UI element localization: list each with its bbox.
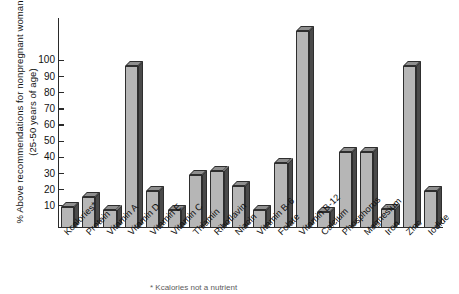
bar-face <box>403 66 416 228</box>
bar-side <box>309 26 314 228</box>
y-tick-label: 100 <box>29 54 55 66</box>
bars-layer <box>59 18 443 228</box>
y-tick-label: 60 <box>29 119 55 131</box>
y-tick-50: 50 <box>24 135 64 147</box>
y-tick-label: 20 <box>29 184 55 196</box>
bar-zinc <box>403 61 416 228</box>
y-tick-60: 60 <box>24 119 64 131</box>
y-tick-10: 10 <box>24 200 64 212</box>
y-tick-40: 40 <box>24 151 64 163</box>
y-tick-label: 70 <box>29 103 55 115</box>
y-tick-70: 70 <box>24 103 64 115</box>
y-tick-90: 90 <box>24 71 64 83</box>
bar-side <box>138 61 143 228</box>
y-tick-label: 10 <box>29 200 55 212</box>
y-tick-20: 20 <box>24 184 64 196</box>
y-tick-30: 30 <box>24 168 64 180</box>
y-tick-100: 100 <box>24 54 64 66</box>
y-tick-80: 80 <box>24 87 64 99</box>
bar-chart: % Above recommendations for nonpregnant … <box>0 0 459 294</box>
y-tick-label: 50 <box>29 135 55 147</box>
y-tick-label: 90 <box>29 71 55 83</box>
bar-vitamin-b-12 <box>296 26 309 228</box>
bar-face <box>296 31 309 228</box>
plot-area: 102030405060708090100 <box>58 18 443 228</box>
bar-side <box>416 61 421 228</box>
y-tick-label: 80 <box>29 87 55 99</box>
x-axis-category-labels: Kcalories*ProteinVitamin AVitamin DVitam… <box>58 230 448 294</box>
y-tick-label: 40 <box>29 151 55 163</box>
chart-footnote: * Kcalories not a nutrient <box>150 283 237 292</box>
y-tick-label: 30 <box>29 168 55 180</box>
